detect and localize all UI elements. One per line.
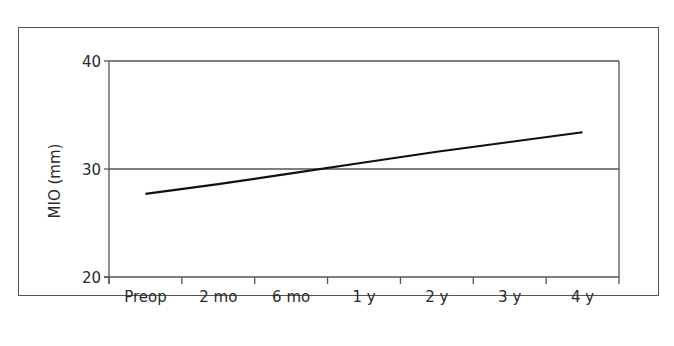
x-tick-label: 6 mo (272, 288, 310, 306)
line-chart: 203040Preop2 mo6 mo1 y2 y3 y4 y MIO (mm) (0, 0, 674, 346)
x-tick-label: 3 y (498, 288, 521, 306)
y-tick-label: 40 (82, 53, 101, 71)
x-tick-label: 2 y (425, 288, 448, 306)
x-tick-label: 2 mo (199, 288, 237, 306)
y-axis-title: MIO (mm) (46, 144, 64, 219)
y-tick-label: 30 (82, 161, 101, 179)
x-tick-label: Preop (124, 288, 167, 306)
series-line (145, 132, 582, 194)
x-tick-label: 1 y (352, 288, 375, 306)
y-tick-label: 20 (82, 269, 101, 287)
plot-area: 203040Preop2 mo6 mo1 y2 y3 y4 y (82, 53, 619, 306)
x-tick-label: 4 y (571, 288, 594, 306)
